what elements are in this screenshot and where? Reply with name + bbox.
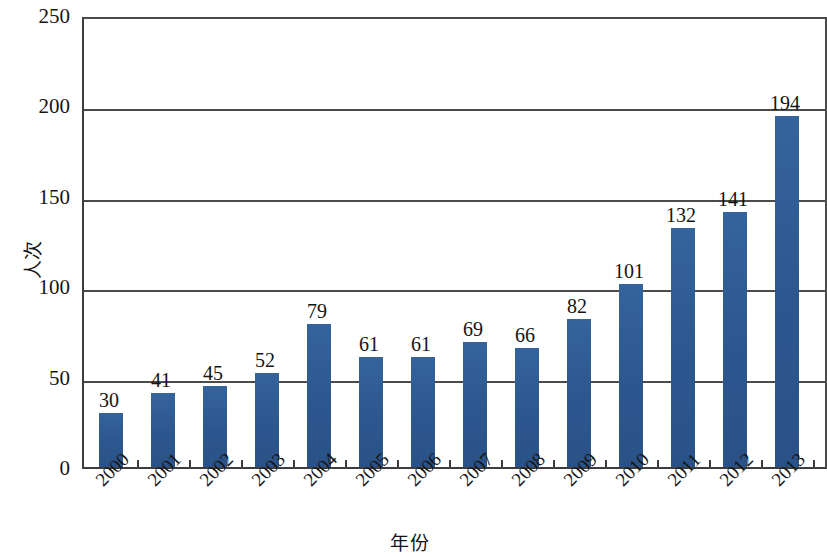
plot-area [82, 17, 827, 469]
bar [775, 116, 799, 467]
y-axis-tick-label: 100 [24, 277, 70, 298]
bar-value-label: 52 [235, 350, 295, 370]
bar-value-label: 69 [443, 319, 503, 339]
bar-value-label: 79 [287, 301, 347, 321]
x-axis-tick [761, 460, 763, 467]
x-axis-tick [709, 460, 711, 467]
y-axis-tick-label: 50 [24, 368, 70, 389]
y-axis-tick-label: 200 [24, 96, 70, 117]
x-axis-tick [345, 460, 347, 467]
y-axis-tick-label: 250 [24, 6, 70, 27]
bar [463, 342, 487, 467]
x-axis-tick [293, 460, 295, 467]
y-axis-tick-label: 0 [24, 458, 70, 479]
bar-value-label: 61 [339, 334, 399, 354]
x-axis-tick [137, 460, 139, 467]
x-axis-tick [605, 460, 607, 467]
bar [723, 212, 747, 467]
y-axis-tick-label: 150 [24, 187, 70, 208]
bar [307, 324, 331, 467]
x-axis-tick [449, 460, 451, 467]
bar [671, 228, 695, 467]
x-axis-title: 年份 [0, 528, 819, 555]
bar-value-label: 30 [79, 390, 139, 410]
x-axis-tick [241, 460, 243, 467]
bar-value-label: 41 [131, 370, 191, 390]
bar-value-label: 101 [599, 261, 659, 281]
bar-value-label: 141 [703, 189, 763, 209]
bar-value-label: 82 [547, 296, 607, 316]
bar-value-label: 66 [495, 325, 555, 345]
x-axis-tick [553, 460, 555, 467]
gridline [84, 290, 825, 292]
x-axis-tick [189, 460, 191, 467]
gridline [84, 109, 825, 111]
x-axis-tick [501, 460, 503, 467]
bar-value-label: 194 [755, 93, 815, 113]
bar-value-label: 61 [391, 334, 451, 354]
bar [619, 284, 643, 467]
x-axis-tick [813, 460, 815, 467]
x-axis-tick [397, 460, 399, 467]
bar-value-label: 45 [183, 363, 243, 383]
bar [567, 319, 591, 467]
x-axis-tick [657, 460, 659, 467]
bar-value-label: 132 [651, 205, 711, 225]
